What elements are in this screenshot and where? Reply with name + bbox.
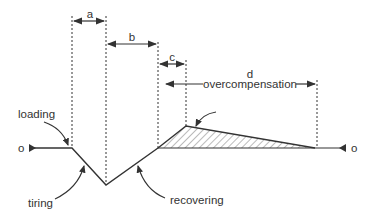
overcompensation-pointer-icon	[196, 112, 216, 126]
interval-c-label: c	[169, 51, 175, 63]
loading-label: loading	[18, 108, 55, 120]
interval-a-label: a	[87, 8, 94, 20]
loading-pointer-icon	[44, 122, 68, 145]
interval-arrows	[74, 21, 315, 84]
baseline-right-label: o	[351, 142, 357, 154]
tiring-label: tiring	[28, 197, 53, 209]
interval-guides	[72, 16, 317, 185]
baseline-marker-right-icon	[339, 144, 346, 152]
interval-b-label: b	[129, 31, 135, 43]
supercompensation-diagram: a b c d overcompensation o o loading tir…	[0, 0, 373, 220]
performance-curve	[31, 126, 315, 185]
tiring-pointer-icon	[55, 166, 84, 199]
baseline-left-label: o	[18, 142, 24, 154]
baseline-marker-left-icon	[29, 144, 36, 152]
recovering-label: recovering	[170, 194, 224, 206]
recovering-pointer-icon	[138, 166, 165, 198]
overcompensation-label: overcompensation	[203, 78, 297, 90]
